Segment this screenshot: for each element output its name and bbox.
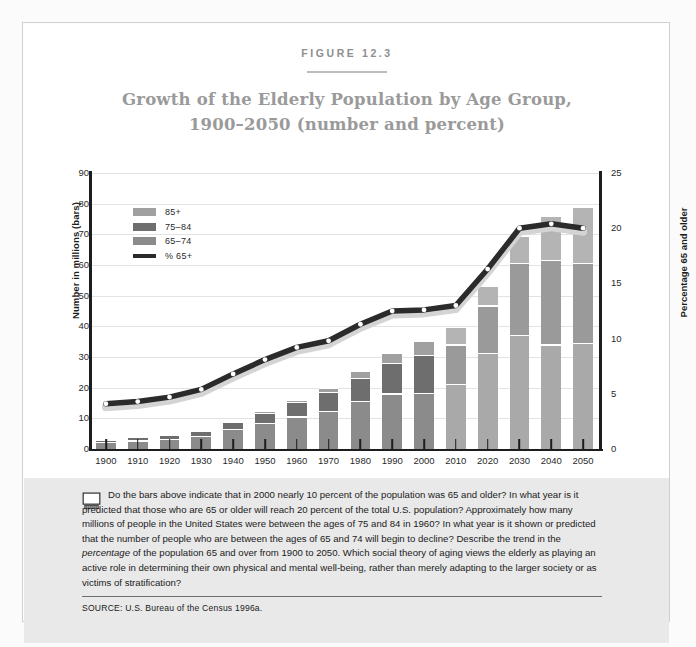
caption-source: SOURCE: U.S. Bureau of the Census 1996a. bbox=[82, 603, 602, 613]
legend-item-percent: % 65+ bbox=[133, 249, 192, 264]
percent-line-marker-2010 bbox=[453, 303, 458, 308]
percent-line-marker-1920 bbox=[167, 395, 172, 400]
legend-item-7584: 75–84 bbox=[133, 220, 192, 235]
percent-line-marker-2020 bbox=[485, 267, 490, 272]
legend-item-6574: 65–74 bbox=[133, 234, 192, 249]
percent-line-marker-1990 bbox=[390, 309, 395, 314]
caption-text: Do the bars above indicate that in 2000 … bbox=[82, 488, 602, 590]
percent-line-marker-1930 bbox=[199, 387, 204, 392]
legend-label-percent: % 65+ bbox=[165, 251, 192, 261]
percent-line-marker-1980 bbox=[358, 322, 363, 327]
percent-line-marker-2000 bbox=[422, 307, 427, 312]
legend-label-6574: 65–74 bbox=[165, 236, 192, 246]
figure-title-line2: 1900–2050 (number and percent) bbox=[189, 115, 505, 134]
figure-page: FIGURE 12.3 Growth of the Elderly Popula… bbox=[0, 0, 696, 647]
percent-line-marker-1950 bbox=[263, 357, 268, 362]
legend-label-7584: 75–84 bbox=[165, 222, 192, 232]
percent-line-marker-1900 bbox=[104, 401, 109, 406]
caption-text-part1: Do the bars above indicate that in 2000 … bbox=[82, 489, 596, 544]
percent-line-marker-1960 bbox=[294, 345, 299, 350]
percent-line-series bbox=[23, 147, 671, 477]
caption-divider bbox=[82, 596, 602, 597]
figure-title-line1: Growth of the Elderly Population by Age … bbox=[122, 90, 572, 109]
percent-line-marker-2050 bbox=[581, 226, 586, 231]
figure-label: FIGURE 12.3 bbox=[23, 47, 671, 59]
figure-title: Growth of the Elderly Population by Age … bbox=[63, 87, 631, 137]
legend-swatch-85plus bbox=[133, 208, 156, 216]
legend-swatch-6574 bbox=[133, 237, 156, 245]
chart-area: 0102030405060708090 0510152025 190019101… bbox=[23, 147, 671, 477]
percent-line-marker-1970 bbox=[326, 338, 331, 343]
percent-line-marker-1940 bbox=[231, 372, 236, 377]
caption-italic-word: percentage bbox=[82, 547, 130, 558]
percent-line-marker-1910 bbox=[135, 399, 140, 404]
legend-swatch-percent bbox=[133, 254, 156, 258]
legend-item-85plus: 85+ bbox=[133, 205, 192, 220]
figure-rule bbox=[307, 71, 387, 73]
legend-swatch-7584 bbox=[133, 223, 156, 231]
chart-legend: 85+ 75–84 65–74 % 65+ bbox=[133, 205, 192, 263]
y-axis-right-title: Percentage 65 and older bbox=[678, 188, 689, 338]
percent-line-marker-2040 bbox=[549, 221, 554, 226]
caption-text-part2: of the population 65 and over from 1900 … bbox=[82, 547, 597, 587]
legend-label-85plus: 85+ bbox=[165, 207, 181, 217]
percent-line-marker-2030 bbox=[517, 226, 522, 231]
figure-frame: FIGURE 12.3 Growth of the Elderly Popula… bbox=[22, 22, 670, 622]
caption-block: Do the bars above indicate that in 2000 … bbox=[24, 478, 669, 643]
